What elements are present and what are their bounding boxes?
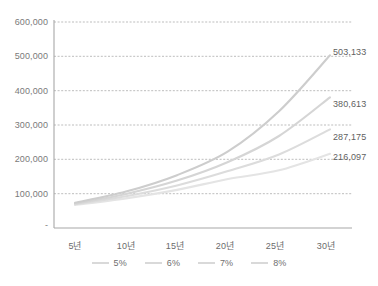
legend-item-7pct[interactable]: 7% (198, 258, 233, 268)
legend-swatch-icon-5pct (92, 262, 109, 264)
legend-item-8pct[interactable]: 8% (251, 258, 286, 268)
xtick-label-15y: 15년 (152, 239, 198, 252)
xtick-label-5y: 5년 (52, 239, 98, 252)
ytick-label-400000: 400,000 (0, 86, 48, 96)
series-line-8pct (75, 55, 330, 203)
legend-label-7pct: 7% (220, 258, 233, 268)
ytick-label-200000: 200,000 (0, 154, 48, 164)
ytick-label-600000: 600,000 (0, 17, 48, 27)
data-label-5pct: 216,097 (333, 152, 366, 162)
chart-legend: 5% 6% 7% 8% (0, 258, 378, 268)
legend-item-6pct[interactable]: 6% (145, 258, 180, 268)
data-label-6pct: 287,175 (333, 132, 366, 142)
series-line-7pct (75, 97, 330, 203)
chart-caption (0, 280, 378, 286)
xtick-label-30y: 30년 (303, 239, 349, 252)
xtick-label-10y: 10년 (103, 239, 149, 252)
data-label-8pct: 503,133 (333, 47, 366, 57)
xtick-label-25y: 25년 (252, 239, 298, 252)
data-label-7pct: 380,613 (333, 99, 366, 109)
legend-item-5pct[interactable]: 5% (92, 258, 127, 268)
ytick-label-500000: 500,000 (0, 51, 48, 61)
legend-label-5pct: 5% (114, 258, 127, 268)
ytick-label-zero: - (0, 220, 48, 230)
legend-label-8pct: 8% (273, 258, 286, 268)
legend-swatch-icon-8pct (251, 262, 268, 264)
series-lines (75, 55, 330, 205)
growth-line-chart: 600,000 500,000 400,000 300,000 200,000 … (0, 0, 378, 286)
legend-swatch-icon-7pct (198, 262, 215, 264)
gridlines (54, 22, 352, 194)
legend-swatch-icon-6pct (145, 262, 162, 264)
xtick-label-20y: 20년 (202, 239, 248, 252)
ytick-label-100000: 100,000 (0, 189, 48, 199)
ytick-label-300000: 300,000 (0, 120, 48, 130)
axis-lines (54, 20, 352, 228)
legend-label-6pct: 6% (167, 258, 180, 268)
